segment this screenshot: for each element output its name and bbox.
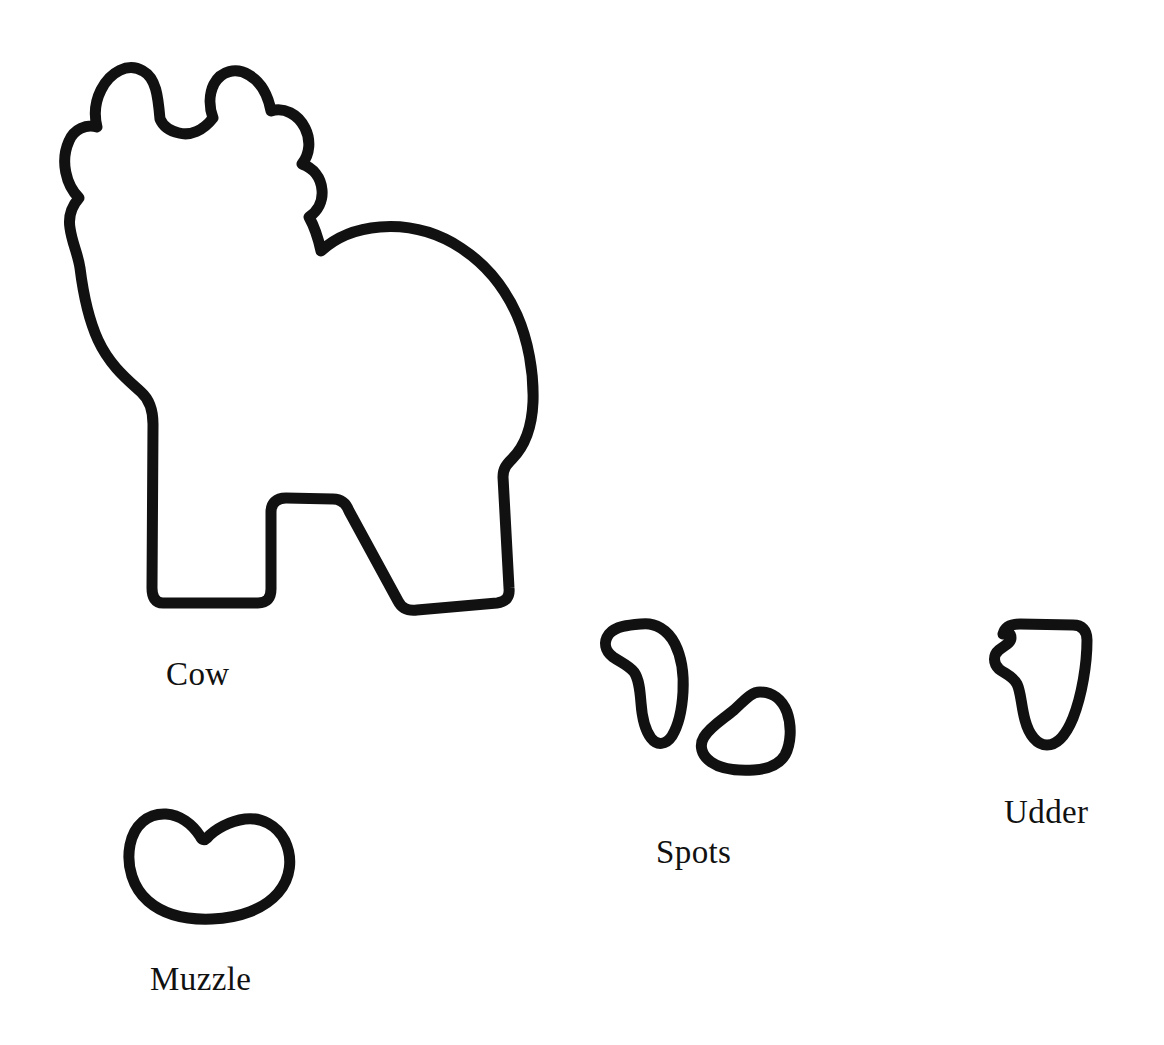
piece-label-udder: Udder	[1004, 796, 1088, 829]
sheet-background	[0, 0, 1164, 1045]
piece-label-spots: Spots	[656, 836, 731, 869]
pattern-drawing-canvas	[0, 0, 1164, 1045]
pattern-sheet: Cow Spots Udder Muzzle	[0, 0, 1164, 1045]
piece-label-cow: Cow	[166, 658, 230, 691]
piece-label-muzzle: Muzzle	[150, 963, 251, 996]
